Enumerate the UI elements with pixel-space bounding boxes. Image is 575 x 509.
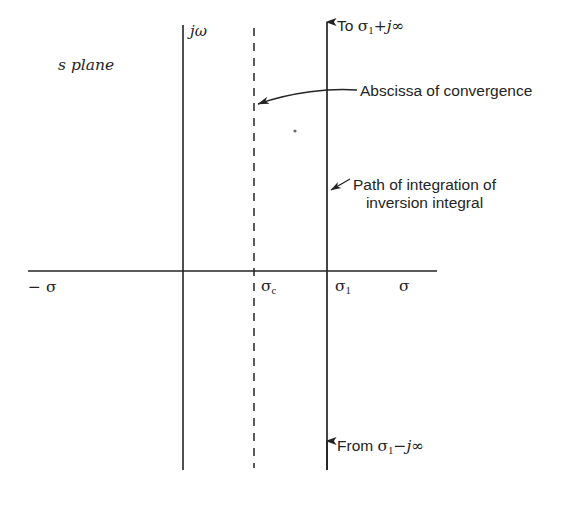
bottom-endpoint-suffix: −j∞: [394, 437, 425, 455]
abscissa-annotation-line-1: Abscissa of convergence: [360, 82, 532, 99]
sigma-symbol: σ: [399, 277, 410, 295]
sigma-one-subscript: 1: [346, 284, 351, 296]
s-plane-label: s plane: [58, 56, 114, 74]
s-plane-symbol: s plane: [58, 56, 114, 74]
abscissa-leader-arrow: [258, 90, 357, 104]
sigma-c-label: σc: [261, 277, 276, 297]
negative-sigma-symbol: − σ: [28, 278, 57, 296]
diagram-canvas: [0, 0, 575, 509]
real-axis-label: σ: [399, 277, 410, 295]
sigma-one-label: σ1: [335, 277, 351, 297]
top-endpoint-sigma: σ: [358, 17, 369, 35]
top-endpoint-suffix: +j∞: [374, 17, 405, 35]
bottom-endpoint-sigma: σ: [377, 437, 388, 455]
path-of-integration-annotation: Path of integration of inversion integra…: [353, 176, 496, 213]
top-endpoint-prefix: To: [337, 17, 353, 34]
sigma-one-symbol: σ: [335, 277, 346, 295]
path-annotation-line-1: Path of integration of: [353, 176, 496, 194]
j-omega-symbol: jω: [190, 22, 207, 40]
s-plane-diagram: s plane jω To σ1+j∞ Abscissa of converge…: [0, 0, 575, 509]
bottom-endpoint-label: From σ1−j∞: [337, 437, 424, 457]
sigma-c-symbol: σ: [261, 277, 272, 295]
path-of-integration-leader-arrow: [331, 179, 350, 190]
abscissa-of-convergence-annotation: Abscissa of convergence: [360, 82, 532, 100]
top-endpoint-label: To σ1+j∞: [337, 17, 404, 37]
negative-sigma-label: − σ: [28, 278, 57, 296]
imaginary-axis-label: jω: [190, 22, 207, 41]
path-annotation-line-2: inversion integral: [353, 194, 496, 212]
sigma-c-subscript: c: [272, 284, 277, 296]
bottom-endpoint-prefix: From: [337, 437, 373, 454]
scan-speck: [293, 129, 296, 132]
